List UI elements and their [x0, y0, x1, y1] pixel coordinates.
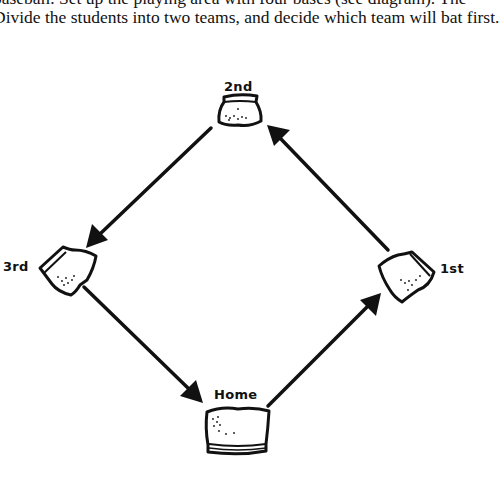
second-base-label: 2nd: [224, 79, 253, 94]
first-base-bag-icon: [379, 252, 434, 302]
arrow-1st-to-2nd: [267, 125, 388, 250]
home-plate-bag-icon: [206, 408, 269, 454]
third-base-label: 3rd: [3, 259, 29, 274]
arrow-3rd-to-home: [84, 287, 203, 403]
arrow-home-to-1st: [268, 293, 381, 406]
first-base-label: 1st: [440, 261, 464, 276]
second-base-bag-icon: [219, 95, 261, 126]
home-base-label: Home: [214, 387, 257, 402]
arrow-2nd-to-3rd: [86, 128, 211, 248]
third-base-bag-icon: [40, 247, 96, 295]
